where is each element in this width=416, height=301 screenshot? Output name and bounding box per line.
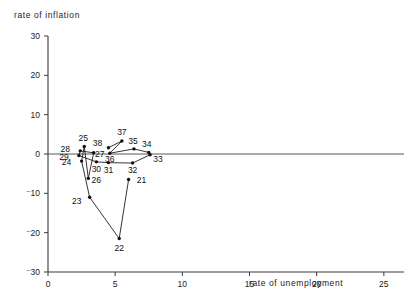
data-point (80, 159, 83, 162)
data-point-label: 34 (142, 139, 152, 149)
data-point-label: 23 (72, 196, 82, 206)
data-point-label: 36 (105, 154, 115, 164)
y-tick-label: ⁻10 (26, 188, 40, 198)
y-tick-label: 30 (31, 31, 41, 41)
data-point (77, 154, 80, 157)
data-point-label: 35 (128, 136, 138, 146)
y-tick-label: 0 (35, 149, 40, 159)
data-point (79, 149, 82, 152)
y-tick-label: 10 (31, 110, 41, 120)
data-point-label: 29 (59, 152, 69, 162)
data-point (118, 237, 121, 240)
data-point (87, 177, 90, 180)
x-tick-label: 25 (379, 279, 389, 289)
data-point (120, 139, 123, 142)
x-tick-label: 20 (312, 279, 322, 289)
chart-figure: rate of inflation rate of unemployment 3… (0, 0, 416, 301)
x-tick-label: 15 (245, 279, 255, 289)
data-point-label: 31 (104, 165, 114, 175)
data-point-label: 33 (153, 154, 163, 164)
y-axis-group: 3020100⁻10⁻20⁻30 (26, 31, 48, 277)
x-tick-label: 0 (46, 279, 51, 289)
data-point (88, 196, 91, 199)
data-point-label: 32 (128, 165, 138, 175)
x-tick-label: 5 (113, 279, 118, 289)
data-point (147, 151, 150, 154)
x-tick-label: 10 (178, 279, 188, 289)
y-tick-label: 20 (31, 70, 41, 80)
y-tick-label: ⁻20 (26, 228, 40, 238)
data-point-label: 37 (117, 127, 127, 137)
data-point (107, 146, 110, 149)
data-point (127, 178, 130, 181)
data-point (132, 147, 135, 150)
x-axis-group: 0510152025 (46, 272, 389, 289)
data-point-label: 26 (92, 175, 102, 185)
data-label-group: 212223242526272829303132333435363738 (59, 127, 163, 253)
data-point-label: 27 (95, 149, 105, 159)
data-point-label: 22 (114, 243, 124, 253)
plot-area: 3020100⁻10⁻20⁻30 0510152025 212223242526… (0, 0, 416, 301)
data-point-label: 38 (93, 138, 103, 148)
data-point (83, 145, 86, 148)
y-tick-label: ⁻30 (26, 267, 40, 277)
data-point-label: 30 (92, 164, 102, 174)
data-point-label: 21 (137, 175, 147, 185)
data-point-label: 25 (79, 133, 89, 143)
